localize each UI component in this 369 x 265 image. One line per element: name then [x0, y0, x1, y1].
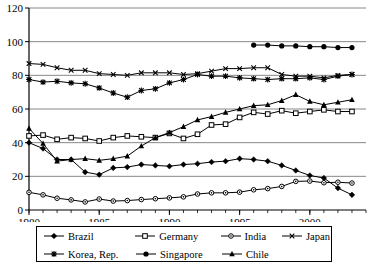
marker: [307, 44, 312, 49]
marker: [237, 75, 243, 81]
series-line: [29, 143, 352, 195]
series-india: [27, 179, 355, 204]
series-singapore: [251, 42, 354, 50]
filled-diamond-icon: [43, 231, 65, 241]
marker-dot: [267, 188, 269, 190]
marker: [139, 134, 144, 139]
marker: [152, 86, 158, 92]
marker: [69, 135, 74, 140]
y-tick-label: 100: [7, 36, 24, 48]
marker: [139, 143, 145, 148]
marker: [40, 79, 46, 85]
marker: [51, 233, 57, 239]
marker: [293, 76, 299, 82]
marker: [195, 161, 201, 167]
marker-dot: [98, 198, 100, 200]
marker: [110, 165, 116, 171]
marker: [251, 42, 256, 47]
marker: [279, 43, 284, 48]
marker: [293, 92, 299, 97]
marker: [153, 163, 159, 169]
marker-dot: [126, 200, 128, 202]
y-tick-label: 60: [12, 103, 24, 115]
legend-item-japan[interactable]: Japan: [281, 231, 331, 242]
marker: [181, 136, 186, 141]
legend-item-singapore[interactable]: Singapore: [135, 249, 221, 260]
marker-dot: [155, 198, 157, 200]
marker: [83, 136, 88, 141]
y-tick-label: 0: [18, 204, 24, 216]
marker: [124, 94, 130, 100]
marker: [349, 192, 355, 198]
marker: [125, 134, 130, 139]
marker-dot: [112, 200, 114, 202]
marker: [110, 90, 116, 96]
marker: [293, 111, 298, 116]
marker-dot: [309, 180, 311, 182]
marker: [54, 78, 60, 84]
marker: [143, 251, 148, 256]
marker-dot: [281, 186, 283, 188]
x-tick-label: 1995: [229, 216, 252, 222]
line-chart: 02040608010012019801985199019952000 Braz…: [0, 0, 369, 265]
legend-label-korea: Korea, Rep.: [65, 249, 120, 260]
marker: [350, 109, 355, 114]
marker: [307, 173, 313, 179]
plot-area: 02040608010012019801985199019952000: [0, 0, 369, 222]
marker-dot: [197, 193, 199, 195]
x-cross-icon: [281, 231, 303, 241]
series-line: [29, 110, 352, 141]
marker-dot: [56, 197, 58, 199]
marker: [322, 108, 327, 113]
marker: [143, 234, 148, 239]
x-tick-label: 2000: [299, 216, 322, 222]
marker: [55, 137, 60, 142]
marker: [279, 108, 284, 113]
marker: [26, 125, 32, 130]
marker-dot: [230, 235, 232, 237]
marker: [251, 157, 257, 163]
marker: [279, 163, 285, 169]
filled-triangle-icon: [221, 249, 243, 259]
legend-item-chile[interactable]: Chile: [221, 249, 283, 260]
marker: [223, 122, 228, 127]
marker: [209, 73, 215, 79]
marker: [279, 76, 285, 82]
star-asterisk-icon: [43, 249, 65, 259]
marker: [265, 158, 271, 164]
marker: [82, 81, 88, 87]
marker: [124, 153, 130, 158]
marker: [265, 77, 271, 83]
marker-dot: [253, 189, 255, 191]
legend-item-india[interactable]: India: [220, 231, 281, 242]
marker: [139, 162, 145, 168]
marker: [293, 43, 298, 48]
legend-label-brazil: Brazil: [65, 231, 96, 242]
legend-item-germany[interactable]: Germany: [134, 231, 219, 242]
marker: [209, 123, 214, 128]
chart-legend: Brazil Germany India Japan Korea, Rep.: [36, 226, 332, 262]
marker: [308, 109, 313, 114]
legend-row-1: Brazil Germany India Japan: [37, 227, 331, 245]
x-tick-label: 1985: [88, 216, 111, 222]
marker: [265, 112, 270, 117]
legend-item-korea[interactable]: Korea, Rep.: [37, 249, 135, 260]
legend-item-brazil[interactable]: Brazil: [37, 231, 134, 242]
marker: [349, 97, 355, 102]
marker: [335, 73, 341, 79]
marker: [321, 77, 327, 83]
marker: [68, 80, 74, 86]
marker-dot: [211, 192, 213, 194]
marker-dot: [337, 181, 339, 183]
legend-label-singapore: Singapore: [157, 249, 205, 260]
marker-dot: [225, 192, 227, 194]
marker: [181, 77, 187, 83]
marker: [265, 42, 270, 47]
marker: [97, 139, 102, 144]
series-line: [29, 74, 352, 97]
marker: [321, 44, 326, 49]
marker: [237, 115, 242, 120]
legend-label-india: India: [242, 231, 269, 242]
marker: [41, 133, 46, 138]
chart-svg: 02040608010012019801985199019952000: [0, 0, 369, 222]
